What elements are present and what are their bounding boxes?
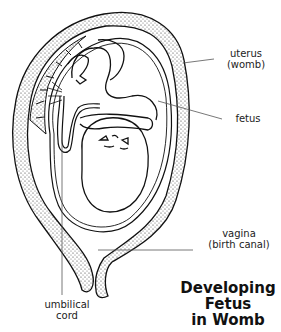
fetus-leader-line (158, 101, 222, 119)
label-uterus: uterus (womb) (218, 48, 274, 70)
fetus (68, 40, 157, 212)
diagram-title: Developing Fetus in Womb (180, 280, 276, 328)
label-umbilical-cord: umbilical cord (40, 299, 94, 321)
uterus-leader-line (183, 59, 214, 63)
label-vagina: vagina (birth canal) (204, 228, 274, 250)
label-fetus: fetus (228, 113, 268, 124)
umbilical-cord (57, 96, 100, 152)
uterus-wall (13, 12, 190, 297)
